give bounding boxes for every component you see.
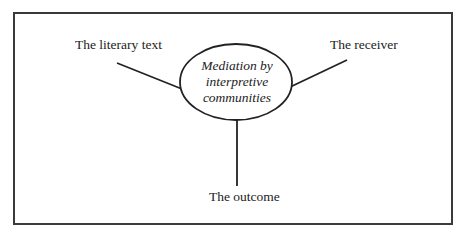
center-line-2: interpretive [185,74,289,90]
connector-receiver [288,60,347,88]
node-receiver: The receiver [330,37,398,53]
center-line-1: Mediation by [185,58,289,74]
center-line-3: communities [185,90,289,106]
node-outcome: The outcome [209,189,280,205]
connector-literary-text [117,63,182,89]
node-literary-text: The literary text [75,37,162,53]
center-label: Mediation by interpretive communities [185,58,289,106]
